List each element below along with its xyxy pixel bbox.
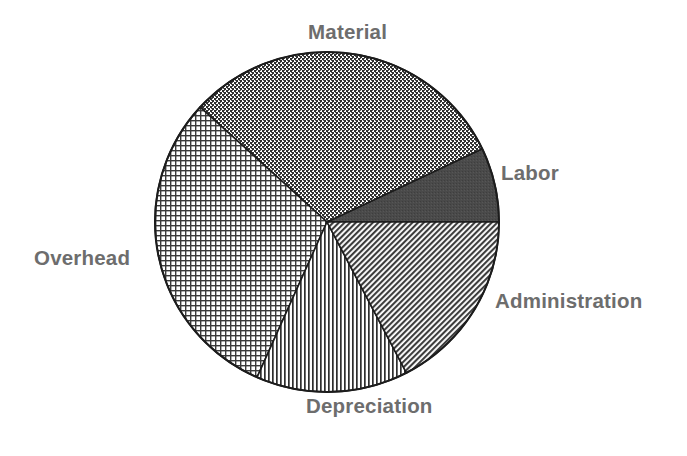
slice-label-overhead: Overhead <box>34 248 130 269</box>
slice-label-material: Material <box>308 22 387 43</box>
slice-label-labor: Labor <box>501 163 559 184</box>
pie-chart-svg <box>0 0 687 456</box>
pie-slices-group <box>155 52 499 392</box>
slice-label-administration: Administration <box>495 291 642 312</box>
pie-chart-figure: Material Labor Administration Depreciati… <box>0 0 687 456</box>
slice-label-depreciation: Depreciation <box>306 396 433 417</box>
